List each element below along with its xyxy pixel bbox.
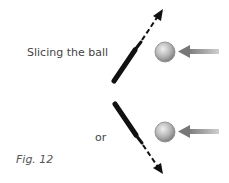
bat-icon xyxy=(114,42,141,81)
slicing-label: Slicing the ball xyxy=(27,46,108,59)
figure-caption: Fig. 12 xyxy=(16,153,53,166)
deflection-arrow-icon xyxy=(142,9,163,40)
ball-icon xyxy=(155,122,175,142)
bottom-panel xyxy=(115,104,219,174)
bat-icon xyxy=(115,104,142,143)
deflection-arrow-icon xyxy=(143,145,163,174)
or-label: or xyxy=(95,131,106,144)
incoming-arrow-icon xyxy=(178,45,219,58)
incoming-arrow-icon xyxy=(178,125,219,138)
top-panel xyxy=(114,9,219,81)
ball-icon xyxy=(155,42,175,62)
